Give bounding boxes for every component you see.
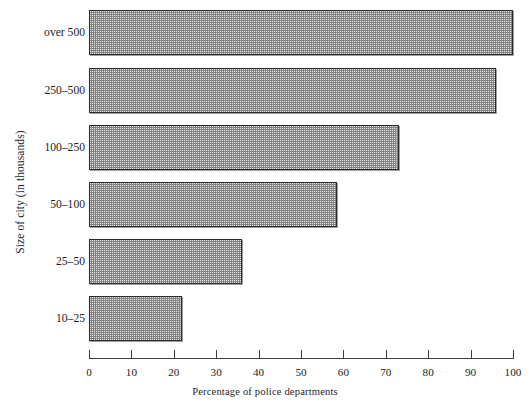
x-tick-label-0: 0 <box>69 366 109 378</box>
bar-chart: Size of city (in thousands) over 500 250… <box>0 0 530 409</box>
x-tick-label-50: 50 <box>281 366 321 378</box>
y-tick-label-over-500: over 500 <box>0 27 85 39</box>
x-tick-label-40: 40 <box>239 366 279 378</box>
bar-50-100 <box>89 182 337 227</box>
x-axis-tick-70 <box>386 350 387 359</box>
x-axis-title: Percentage of police departments <box>0 386 530 397</box>
y-tick-label-100-250: 100–250 <box>0 142 85 154</box>
x-tick-label-10: 10 <box>111 366 151 378</box>
y-tick-label-250-500: 250–500 <box>0 85 85 97</box>
x-tick-label-70: 70 <box>366 366 406 378</box>
y-tick-label-25-50: 25–50 <box>0 256 85 268</box>
y-tick-label-50-100: 50–100 <box>0 199 85 211</box>
x-tick-label-20: 20 <box>154 366 194 378</box>
x-axis-tick-30 <box>216 350 217 359</box>
x-axis-tick-60 <box>343 350 344 359</box>
x-axis-tick-20 <box>174 350 175 359</box>
bar-25-50 <box>89 239 242 284</box>
bar-250-500 <box>89 68 496 113</box>
x-axis-tick-90 <box>471 350 472 359</box>
x-tick-label-60: 60 <box>323 366 363 378</box>
bar-over-500 <box>89 10 513 55</box>
x-axis-tick-100 <box>513 350 514 359</box>
x-tick-label-80: 80 <box>408 366 448 378</box>
x-tick-label-90: 90 <box>451 366 491 378</box>
x-tick-label-100: 100 <box>493 366 530 378</box>
x-axis-tick-0 <box>89 350 90 359</box>
x-axis-tick-80 <box>428 350 429 359</box>
x-axis-tick-50 <box>301 350 302 359</box>
x-tick-label-30: 30 <box>196 366 236 378</box>
x-axis-tick-40 <box>259 350 260 359</box>
bar-100-250 <box>89 125 399 170</box>
x-axis-tick-10 <box>131 350 132 359</box>
bar-10-25 <box>89 296 182 341</box>
y-axis-title: Size of city (in thousands) <box>14 77 26 307</box>
y-tick-label-10-25: 10–25 <box>0 313 85 325</box>
